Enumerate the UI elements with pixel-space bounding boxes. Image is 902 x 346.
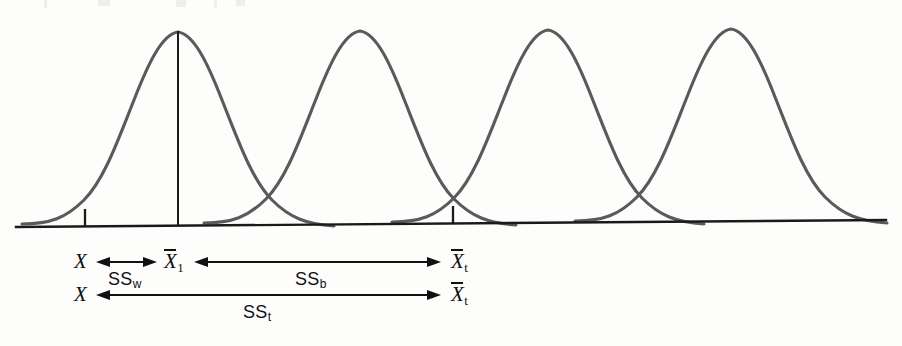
arrow-ss-total (96, 290, 441, 300)
scan-artifact-top (44, 0, 245, 8)
label-total-mean-row2-subscript: t (464, 293, 468, 308)
label-total-mean-row2: Xt (451, 284, 468, 307)
label-ss-within: SSw (108, 270, 142, 290)
distribution-curve-4 (575, 29, 887, 223)
label-ss-between: SSb (295, 270, 327, 290)
label-score-row1-text: X (74, 249, 87, 273)
label-score-row2: X (74, 284, 87, 305)
label-ss-total: SSt (243, 303, 271, 323)
overbar-total-mean-row1 (451, 249, 463, 251)
label-ss-within-text: SS (108, 269, 132, 289)
label-group-mean-text: X (164, 249, 177, 273)
distribution-curves (22, 29, 887, 226)
label-total-mean-row1: Xt (451, 251, 468, 274)
baseline-axis (16, 220, 886, 227)
distribution-curve-2 (204, 31, 516, 225)
label-total-mean-row1-text: X (451, 249, 464, 273)
anova-sum-of-squares-figure: X X1 Xt SSw SSb X Xt SSt (0, 0, 902, 346)
label-ss-total-text: SS (243, 302, 267, 322)
label-group-mean-subscript: 1 (177, 260, 184, 275)
overbar-total-mean-row2 (451, 282, 463, 284)
distribution-curve-3 (392, 30, 704, 224)
arrow-ss-between (194, 257, 441, 267)
label-score-row1: X (74, 251, 87, 272)
label-total-mean-row1-subscript: t (464, 260, 468, 275)
label-score-row2-text: X (74, 282, 87, 306)
overbar-group-mean (164, 249, 176, 251)
label-ss-between-text: SS (295, 269, 319, 289)
label-ss-within-subscript: w (133, 277, 142, 291)
label-ss-between-subscript: b (320, 277, 327, 291)
label-ss-total-subscript: t (268, 310, 272, 324)
label-total-mean-row2-text: X (451, 282, 464, 306)
arrow-ss-within (96, 257, 157, 267)
label-group-mean: X1 (164, 251, 184, 274)
